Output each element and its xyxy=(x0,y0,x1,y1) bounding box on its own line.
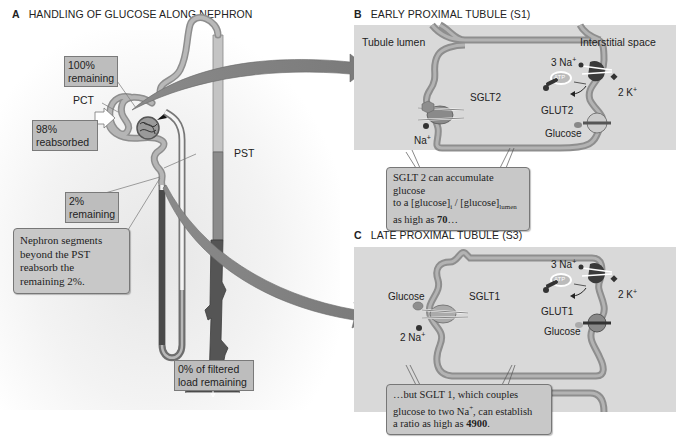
callout-c-value: 4900 xyxy=(466,418,487,429)
label-glut1: GLUT1 xyxy=(541,306,573,317)
label-sglt1: SGLT1 xyxy=(469,291,500,302)
na-c-text: 2 Na xyxy=(400,332,421,343)
glucose-molecule-icon xyxy=(413,302,423,310)
pump-k-c-text: 2 K xyxy=(618,289,633,300)
panel-c-cell-diagram xyxy=(0,0,681,437)
label-pump-na-c: 3 Na+ xyxy=(551,258,576,270)
callout-c-line2-post: , can establish xyxy=(473,405,532,416)
pump-k-c-sup: + xyxy=(633,288,637,295)
na-c-sup: + xyxy=(421,331,425,338)
label-glucose-lumen-c: Glucose xyxy=(388,291,425,302)
label-na-c: 2 Na+ xyxy=(400,331,425,343)
callout-c-line3: a ratio as high as 4900. xyxy=(393,418,545,431)
pump-na-c-text: 3 Na xyxy=(551,259,572,270)
callout-c-line3-pre: a ratio as high as xyxy=(393,418,466,429)
label-glucose-c: Glucose xyxy=(544,326,581,337)
label-pump-k-c: 2 K+ xyxy=(618,288,637,300)
label-atp-c: ATP xyxy=(554,276,565,282)
callout-c-line3-post: . xyxy=(487,418,490,429)
callout-c-line1: …but SGLT 1, which couples xyxy=(393,389,545,402)
callout-sglt1: …but SGLT 1, which couples glucose to tw… xyxy=(386,384,552,435)
callout-c-line2: glucose to two Na+, can establish xyxy=(393,402,545,418)
pump-na-c-sup: + xyxy=(572,258,576,265)
callout-c-line2-pre: glucose to two Na xyxy=(393,405,469,416)
